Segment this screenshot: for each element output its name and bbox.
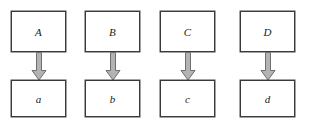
target-box-1: a xyxy=(11,80,66,117)
target-box-2: b xyxy=(85,80,140,117)
mapping-column-4: D d xyxy=(240,0,297,123)
mapping-column-2: B b xyxy=(85,0,142,123)
target-box-label-1: a xyxy=(12,93,65,104)
target-box-3: c xyxy=(160,80,215,117)
source-box-label-3: C xyxy=(161,26,214,37)
diagram-canvas: A a B b C xyxy=(0,0,313,123)
source-box-label-1: A xyxy=(12,26,65,37)
target-box-label-2: b xyxy=(86,93,139,104)
down-arrow-icon-3 xyxy=(180,52,196,81)
source-box-4: D xyxy=(240,11,295,52)
down-arrow-icon-4 xyxy=(260,52,276,81)
target-box-4: d xyxy=(240,80,295,117)
source-box-label-2: B xyxy=(86,26,139,37)
down-arrow-icon-1 xyxy=(31,52,47,81)
source-box-2: B xyxy=(85,11,140,52)
source-box-label-4: D xyxy=(241,26,294,37)
target-box-label-3: c xyxy=(161,93,214,104)
down-arrow-icon-2 xyxy=(105,52,121,81)
target-box-label-4: d xyxy=(241,93,294,104)
source-box-3: C xyxy=(160,11,215,52)
source-box-1: A xyxy=(11,11,66,52)
mapping-column-3: C c xyxy=(160,0,217,123)
mapping-column-1: A a xyxy=(11,0,68,123)
